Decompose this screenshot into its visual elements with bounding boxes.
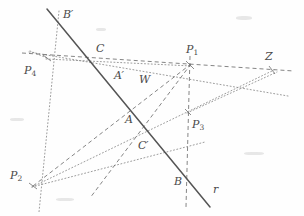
line-P2-to-P1-dashed (33, 64, 191, 186)
label-C-prime-prime: ′ (146, 139, 149, 152)
line-P4-to-Z-dashed (22, 53, 294, 71)
scan-speck (244, 152, 264, 155)
label-B-prime-prime: ′ (71, 8, 74, 21)
label-P2-subscript: 2 (18, 174, 23, 183)
label-W-base: W (139, 73, 150, 86)
label-A: A (125, 114, 133, 125)
label-Z-base: Z (265, 50, 273, 63)
line-r-solid (47, 9, 210, 207)
label-P3: P3 (192, 119, 204, 132)
label-P3-base: P (192, 118, 199, 131)
label-P4: P4 (24, 65, 36, 78)
figure-canvas (0, 0, 304, 216)
scan-speck (96, 28, 106, 31)
geometry-figure: B′CP1ZP4A′WAP3C′P2Br (0, 0, 304, 216)
scan-speck (236, 16, 252, 20)
dashed-line-group (22, 53, 294, 207)
scan-speck (56, 198, 74, 201)
line-P4-diagonal-dotted (29, 52, 288, 96)
label-A-prime-prime: ′ (122, 69, 125, 82)
label-C: C (96, 43, 104, 54)
label-P1-base: P (186, 43, 193, 56)
label-Z: Z (265, 51, 273, 62)
line-P2-to-Z-dotted (32, 70, 274, 187)
label-A-base: A (125, 113, 133, 126)
solid-line-group (47, 9, 210, 207)
tick-P1 (186, 61, 194, 69)
point-marker-group (29, 55, 275, 189)
dotted-line-group (29, 11, 288, 212)
label-W: W (139, 74, 150, 85)
scan-speck (10, 118, 24, 121)
label-B-prime: B′ (63, 9, 73, 20)
label-P3-subscript: 3 (200, 123, 205, 132)
label-A-prime: A′ (114, 70, 124, 81)
label-A-prime-base: A (114, 69, 122, 82)
label-B: B (174, 176, 182, 187)
label-P1: P1 (186, 44, 198, 57)
label-P2: P2 (10, 170, 22, 183)
label-C-prime: C′ (138, 140, 149, 151)
label-r: r (213, 184, 218, 195)
label-P1-subscript: 1 (194, 48, 199, 57)
label-B-base: B (174, 175, 182, 188)
line-P3-to-Z-dotted (187, 72, 277, 113)
label-P2-base: P (10, 169, 17, 182)
label-P4-base: P (24, 64, 31, 77)
label-P4-subscript: 4 (32, 69, 37, 78)
label-C-base: C (96, 42, 104, 55)
label-r-base: r (213, 183, 218, 196)
label-B-prime-base: B (63, 8, 71, 21)
